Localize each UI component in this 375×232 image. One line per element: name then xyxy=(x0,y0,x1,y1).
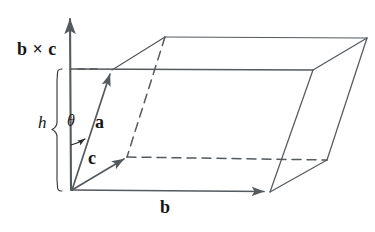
vector-a-arrow xyxy=(72,74,110,190)
axis-bxc-line xyxy=(70,19,71,190)
right-face-edge-vertical-near xyxy=(270,70,313,192)
angle-arc-icon xyxy=(71,139,85,145)
height-brace-icon xyxy=(52,69,62,191)
base-edge-right-front xyxy=(270,160,327,192)
label-vector-c: c xyxy=(88,149,96,167)
top-face-edge-right xyxy=(313,38,367,70)
label-vector-a: a xyxy=(95,113,104,131)
base-edge-hidden-vertical xyxy=(127,37,165,157)
label-b-cross-c: b × c xyxy=(17,40,57,58)
label-height-h: h xyxy=(38,114,47,131)
parallelepiped-figure: b × c h θ a c b xyxy=(0,0,375,232)
vector-b-arrow xyxy=(72,190,264,192)
height-level-line xyxy=(70,69,313,70)
figure-canvas xyxy=(0,0,375,232)
top-face-edge-back xyxy=(165,37,367,38)
base-edge-hidden-horizontal xyxy=(127,157,327,160)
top-face-edge-left xyxy=(112,37,165,70)
right-face-edge-vertical-far xyxy=(327,38,367,160)
label-angle-theta: θ xyxy=(67,113,75,129)
label-vector-b: b xyxy=(160,198,170,216)
